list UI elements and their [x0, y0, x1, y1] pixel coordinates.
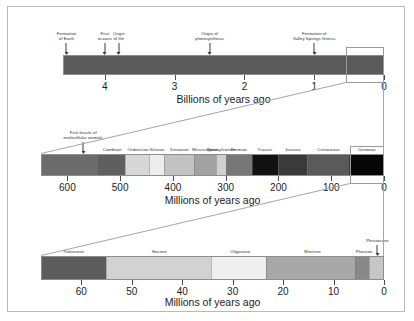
- band-cenozoic: PaleoceneEoceneOligoceneMiocenePliocene …: [8, 220, 404, 312]
- period-segment-ordovician: [125, 155, 148, 175]
- axis-tick-200: [278, 176, 279, 181]
- axis-tick-600: [67, 176, 68, 181]
- axis-tick-30: [233, 280, 234, 285]
- figure-frame: Formationof EarthFirstoceansOriginof lif…: [7, 6, 405, 312]
- event-label-origin: Originof life: [113, 31, 125, 41]
- period-label-cretaceous: Cretaceous: [317, 147, 339, 152]
- band-precambrian-bar: [63, 55, 384, 75]
- period-label-triassic: Triassic: [257, 147, 272, 152]
- axis-tick-500: [120, 176, 121, 181]
- axis-tick-label-400: 400: [165, 182, 182, 193]
- event-label-formation-of: Formation ofValley Springs Gneiss: [293, 31, 335, 41]
- period-segment-miocene: [266, 257, 354, 279]
- period-segment-unnamed-0: [42, 155, 97, 175]
- period-segment-jurassic: [278, 155, 307, 175]
- period-segment-permian: [226, 155, 251, 175]
- axis-tick-400: [173, 176, 174, 181]
- period-segment-pliocene: [355, 257, 369, 279]
- period-segment-triassic: [252, 155, 279, 175]
- period-segment-mississippian: [194, 155, 216, 175]
- period-label-pliocene: Pliocene: [356, 249, 373, 254]
- period-segment-paleocene: [42, 257, 106, 279]
- band-cenozoic-axis-caption: Millions of years ago: [41, 296, 384, 308]
- period-label-cambrian: Cambrian: [103, 147, 122, 152]
- axis-tick-label-600: 600: [59, 182, 76, 193]
- event-arrow-origin-of: [209, 43, 210, 52]
- period-segment-unnamed-5: [369, 257, 383, 279]
- period-label-ordovician: Ordovician: [128, 147, 149, 152]
- period-label-devonian: Devonian: [170, 147, 189, 152]
- period-segment-silurian: [149, 155, 164, 175]
- axis-tick-60: [81, 280, 82, 285]
- axis-tick-label-500: 500: [112, 182, 129, 193]
- axis-tick-3: [175, 75, 176, 80]
- event-label-first: Firstoceans: [98, 31, 112, 41]
- event-arrow-formation-of: [314, 43, 315, 52]
- figure-canvas: Formationof EarthFirstoceansOriginof lif…: [0, 0, 414, 321]
- band-precambrian: Formationof EarthFirstoceansOriginof lif…: [8, 7, 404, 107]
- connector-line-top-right: [383, 83, 384, 154]
- band-phanerozoic-axis-caption: Millions of years ago: [41, 194, 384, 206]
- axis-tick-label-300: 300: [217, 182, 234, 193]
- event-label-origin-of: Origin ofphotosynthesis: [195, 31, 224, 41]
- axis-tick-50: [132, 280, 133, 285]
- period-label-oligocene: Oligocene: [230, 249, 250, 254]
- connector-line-bottom-right: [383, 184, 384, 256]
- event-arrow-origin: [118, 43, 119, 52]
- period-segment-pennsylvanian: [216, 155, 227, 175]
- band-precambrian-zoom-box: [346, 47, 384, 83]
- event-arrow-first: [104, 43, 105, 52]
- event-arrow-pleistocene: [377, 245, 378, 253]
- axis-tick-100: [331, 176, 332, 181]
- band-phanerozoic-zoom-box: [350, 146, 384, 184]
- axis-tick-0: [384, 280, 385, 285]
- axis-tick-300: [226, 176, 227, 181]
- band-phanerozoic: CambrianOrdovicianSilurianDevonianMissis…: [8, 110, 404, 210]
- axis-tick-label-200: 200: [270, 182, 287, 193]
- period-label-permian: Permian: [231, 147, 247, 152]
- axis-tick-label-2: 2: [242, 81, 248, 92]
- axis-tick-0: [384, 75, 385, 80]
- axis-tick-label-4: 4: [102, 81, 108, 92]
- event-label-formation: Formationof Earth: [57, 31, 77, 41]
- band-phanerozoic-bar: [41, 154, 384, 176]
- period-segment-oligocene: [211, 257, 266, 279]
- period-label-eocene: Eocene: [152, 249, 167, 254]
- axis-tick-10: [334, 280, 335, 285]
- axis-tick-4: [105, 75, 106, 80]
- axis-tick-2: [244, 75, 245, 80]
- period-segment-cambrian: [97, 155, 125, 175]
- period-label-silurian: Silurian: [150, 147, 165, 152]
- period-segment-cretaceous: [307, 155, 349, 175]
- axis-tick-40: [182, 280, 183, 285]
- band-precambrian-axis-caption: Billions of years ago: [63, 93, 384, 105]
- period-label-miocene: Miocene: [304, 249, 321, 254]
- axis-tick-label-3: 3: [172, 81, 178, 92]
- axis-tick-1: [314, 75, 315, 80]
- event-label-pleistocene: Pleistocene: [366, 238, 389, 243]
- period-segment-devonian: [164, 155, 194, 175]
- band-cenozoic-bar: [41, 256, 384, 280]
- period-segment-eocene: [106, 257, 211, 279]
- axis-tick-20: [283, 280, 284, 285]
- event-arrow-formation: [66, 43, 67, 52]
- axis-tick-0: [384, 176, 385, 181]
- period-label-jurassic: Jurassic: [285, 147, 301, 152]
